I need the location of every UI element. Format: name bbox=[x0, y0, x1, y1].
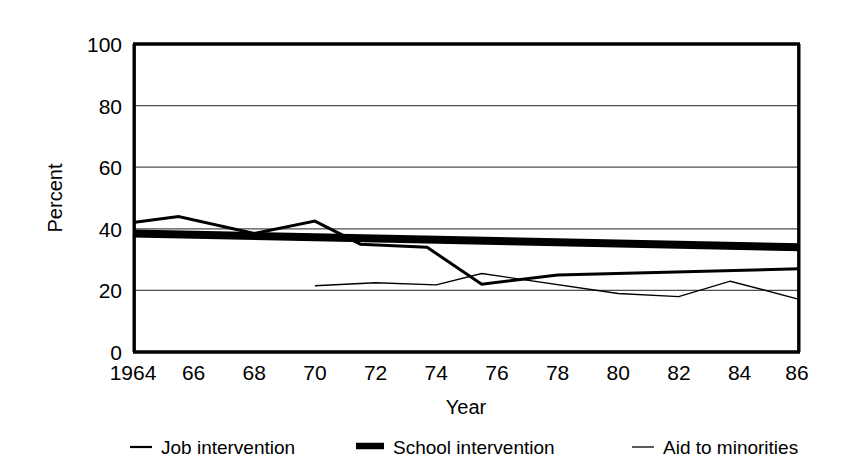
chart-container: 100 80 60 40 20 0 Percent 1964 66 68 70 … bbox=[0, 0, 847, 476]
x-tick-label: 84 bbox=[728, 361, 752, 384]
y-tick-label: 40 bbox=[99, 218, 122, 241]
y-tick-label: 80 bbox=[99, 95, 122, 118]
x-tick-label: 72 bbox=[364, 361, 387, 384]
x-tick-label: 78 bbox=[546, 361, 569, 384]
x-tick-label: 76 bbox=[485, 361, 508, 384]
y-tick-label: 100 bbox=[87, 33, 122, 56]
x-axis-title: Year bbox=[446, 396, 487, 418]
y-axis-title: Percent bbox=[44, 163, 66, 232]
x-tick-label: 74 bbox=[425, 361, 449, 384]
chart-legend: Job intervention School intervention Aid… bbox=[130, 437, 798, 458]
x-tick-label: 66 bbox=[182, 361, 205, 384]
y-tick-label: 60 bbox=[99, 156, 122, 179]
y-tick-label: 20 bbox=[99, 279, 122, 302]
x-tick-label: 80 bbox=[607, 361, 630, 384]
legend-label: School intervention bbox=[393, 437, 555, 458]
line-chart: 100 80 60 40 20 0 Percent 1964 66 68 70 … bbox=[0, 0, 847, 476]
x-tick-label: 86 bbox=[785, 361, 808, 384]
x-tick-label: 1964 bbox=[110, 361, 157, 384]
x-tick-label: 70 bbox=[303, 361, 326, 384]
legend-label: Aid to minorities bbox=[663, 437, 798, 458]
x-tick-label: 82 bbox=[667, 361, 690, 384]
legend-label: Job intervention bbox=[161, 437, 295, 458]
x-tick-label: 68 bbox=[243, 361, 266, 384]
